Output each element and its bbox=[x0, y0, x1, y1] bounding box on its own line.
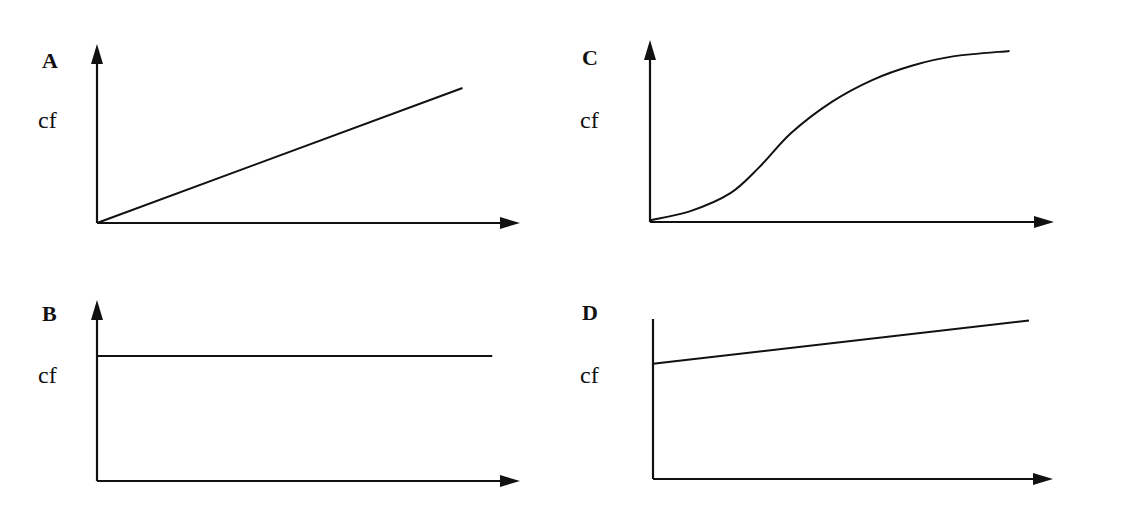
panel-c-curve bbox=[650, 51, 1010, 220]
panel-d-letter: D bbox=[582, 300, 598, 325]
panel-c: Ccf bbox=[580, 40, 1054, 228]
panel-b: Bcf bbox=[38, 300, 520, 487]
panel-b-x-arrow-icon bbox=[500, 475, 520, 487]
panel-c-letter: C bbox=[582, 45, 598, 70]
panel-c-y-arrow-icon bbox=[644, 40, 656, 60]
panel-d: Dcf bbox=[580, 300, 1053, 485]
panel-a: Acf bbox=[38, 44, 520, 229]
panel-b-y-arrow-icon bbox=[91, 300, 103, 320]
panel-d-ylabel: cf bbox=[580, 362, 599, 388]
figure-canvas: Acf Bcf Ccf Dcf bbox=[0, 0, 1138, 518]
panel-a-y-arrow-icon bbox=[91, 44, 103, 64]
panel-d-x-arrow-icon bbox=[1033, 473, 1053, 485]
panel-b-ylabel: cf bbox=[38, 362, 57, 388]
panel-a-x-arrow-icon bbox=[500, 217, 520, 229]
panel-a-letter: A bbox=[42, 48, 58, 73]
panel-b-letter: B bbox=[42, 301, 57, 326]
panel-a-curve bbox=[97, 88, 463, 223]
panel-c-ylabel: cf bbox=[580, 107, 599, 133]
panel-c-x-arrow-icon bbox=[1034, 216, 1054, 228]
panel-d-curve bbox=[653, 321, 1029, 364]
panel-a-ylabel: cf bbox=[38, 107, 57, 133]
